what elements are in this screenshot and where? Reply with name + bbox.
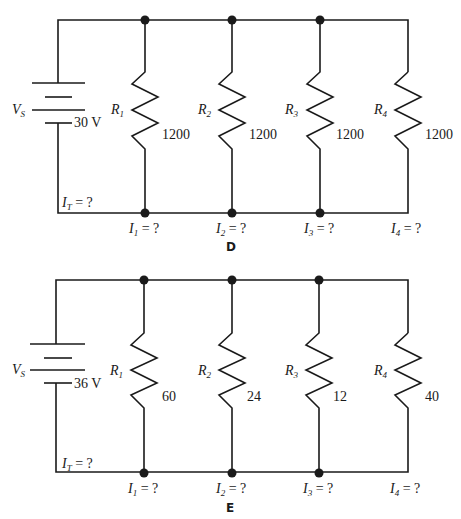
r1-value-e: 60 <box>162 390 176 404</box>
circuit-wiring <box>0 0 461 519</box>
r-subscript: 4 <box>383 370 388 380</box>
r-subscript: 1 <box>119 370 124 380</box>
total-current-value: = ? <box>75 456 93 471</box>
i4-label-e: I4 = ? <box>390 482 420 498</box>
source-subscript: S <box>21 109 26 119</box>
i-value: = ? <box>141 481 159 496</box>
i2-label-d: I2 = ? <box>216 222 246 238</box>
i-subscript: 1 <box>134 228 139 238</box>
i-value: = ? <box>317 221 335 236</box>
r-symbol: R <box>198 363 207 378</box>
r2-label-d: R2 <box>198 103 211 119</box>
resistor-r4-e <box>395 333 421 412</box>
resistor-r1-d <box>132 20 158 213</box>
i-subscript: 2 <box>221 228 226 238</box>
r3-value-d: 1200 <box>336 128 364 142</box>
r3-label-d: R3 <box>285 103 298 119</box>
r2-value-e: 24 <box>247 390 261 404</box>
r4-label-d: R4 <box>374 103 387 119</box>
i-subscript: 1 <box>133 488 138 498</box>
resistor-r3-e <box>306 280 332 472</box>
source-label-d: VS <box>12 103 25 119</box>
r2-value-d: 1200 <box>249 128 277 142</box>
i3-label-d: I3 = ? <box>304 222 334 238</box>
i-value: = ? <box>229 481 247 496</box>
r-symbol: R <box>285 102 294 117</box>
i2-label-e: I2 = ? <box>216 482 246 498</box>
source-value-d: 30 V <box>74 116 101 130</box>
i3-label-e: I3 = ? <box>303 482 333 498</box>
i-value: = ? <box>404 221 422 236</box>
resistor-r1-e <box>131 280 157 472</box>
resistor-r4-d <box>395 72 421 152</box>
i-value: = ? <box>403 481 421 496</box>
i-subscript: 3 <box>308 488 313 498</box>
resistor-r2-e <box>219 280 245 472</box>
source-subscript: S <box>21 369 26 379</box>
r-symbol: R <box>198 102 207 117</box>
r-subscript: 4 <box>383 109 388 119</box>
r-symbol: R <box>374 102 383 117</box>
total-current-subscript: T <box>67 463 72 473</box>
r1-value-d: 1200 <box>162 128 190 142</box>
total-current-subscript: T <box>67 202 72 212</box>
i-subscript: 4 <box>395 488 400 498</box>
r-subscript: 1 <box>120 109 125 119</box>
i-value: = ? <box>142 221 160 236</box>
r-subscript: 3 <box>294 109 299 119</box>
i-value: = ? <box>316 481 334 496</box>
figure-label-e: E <box>226 501 234 515</box>
i-subscript: 4 <box>396 228 401 238</box>
total-current-e: IT = ? <box>62 457 93 473</box>
total-current-d: IT = ? <box>62 196 93 212</box>
r4-label-e: R4 <box>374 364 387 380</box>
source-label-e: VS <box>12 363 25 379</box>
resistor-r2-d <box>219 20 245 213</box>
source-symbol: V <box>12 102 21 117</box>
r4-value-e: 40 <box>425 390 439 404</box>
r3-label-e: R3 <box>285 364 298 380</box>
r-subscript: 2 <box>207 370 212 380</box>
r-symbol: R <box>111 102 120 117</box>
source-symbol: V <box>12 362 21 377</box>
source-value-e: 36 V <box>74 377 101 391</box>
i1-label-e: I1 = ? <box>128 482 158 498</box>
r4-value-d: 1200 <box>425 128 453 142</box>
i-value: = ? <box>229 221 247 236</box>
figure-label-d: D <box>226 240 236 254</box>
r3-value-e: 12 <box>333 390 347 404</box>
r-subscript: 3 <box>294 370 299 380</box>
resistor-r3-d <box>307 20 333 213</box>
r-symbol: R <box>110 363 119 378</box>
i-subscript: 3 <box>309 228 314 238</box>
i1-label-d: I1 = ? <box>129 222 159 238</box>
r-symbol: R <box>285 363 294 378</box>
r2-label-e: R2 <box>198 364 211 380</box>
i-subscript: 2 <box>221 488 226 498</box>
r1-label-d: R1 <box>111 103 124 119</box>
total-current-value: = ? <box>75 195 93 210</box>
i4-label-d: I4 = ? <box>391 222 421 238</box>
r-symbol: R <box>374 363 383 378</box>
r1-label-e: R1 <box>110 364 123 380</box>
r-subscript: 2 <box>207 109 212 119</box>
